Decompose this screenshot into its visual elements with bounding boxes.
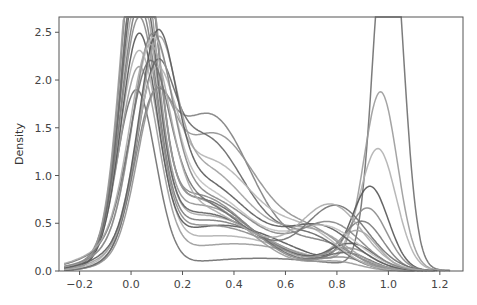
x-tick-label: 0.4 bbox=[225, 278, 243, 291]
y-tick-label: 0.0 bbox=[35, 265, 53, 278]
y-axis-label: Density bbox=[13, 123, 26, 165]
y-tick-label: 1.0 bbox=[35, 170, 53, 183]
x-tick-label: −0.2 bbox=[66, 278, 93, 291]
y-tick-label: 0.5 bbox=[35, 217, 53, 230]
x-tick-label: 0.0 bbox=[122, 278, 140, 291]
y-tick-label: 2.5 bbox=[35, 26, 53, 39]
x-axis-ticks: −0.20.00.20.40.60.81.01.2 bbox=[66, 271, 448, 291]
x-tick-label: 1.0 bbox=[380, 278, 398, 291]
y-axis-ticks: 0.00.51.01.52.02.5 bbox=[35, 26, 60, 278]
x-tick-label: 0.2 bbox=[174, 278, 192, 291]
y-tick-label: 2.0 bbox=[35, 74, 53, 87]
x-tick-label: 0.6 bbox=[277, 278, 295, 291]
density-curves bbox=[64, 17, 450, 271]
x-tick-label: 0.8 bbox=[328, 278, 346, 291]
y-tick-label: 1.5 bbox=[35, 122, 53, 135]
density-chart: −0.20.00.20.40.60.81.01.2 0.00.51.01.52.… bbox=[0, 0, 477, 305]
x-tick-label: 1.2 bbox=[431, 278, 449, 291]
